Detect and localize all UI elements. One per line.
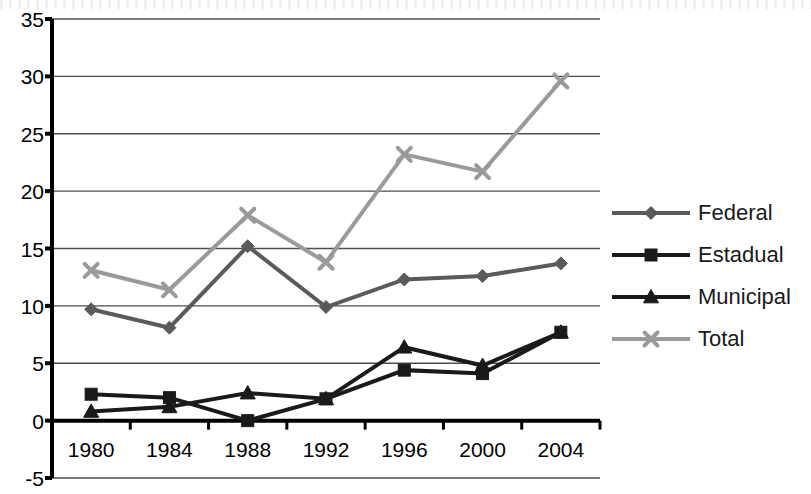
y-axis-label-35: 35 bbox=[0, 9, 44, 30]
data-point-square bbox=[645, 249, 657, 261]
legend-label-federal: Federal bbox=[698, 202, 773, 224]
x-axis-label-1984: 1984 bbox=[146, 439, 193, 460]
legend-square-marker-icon bbox=[640, 244, 662, 266]
data-point-x bbox=[241, 209, 254, 222]
legend: FederalEstadualMunicipalTotal bbox=[612, 192, 811, 360]
x-axis-label-1996: 1996 bbox=[381, 439, 428, 460]
legend-label-estadual: Estadual bbox=[698, 244, 784, 266]
y-axis-label-10: 10 bbox=[0, 295, 44, 316]
scan-artifact bbox=[0, 0, 811, 9]
data-point-triangle bbox=[397, 340, 412, 353]
legend-label-total: Total bbox=[698, 328, 744, 350]
y-axis-label-20: 20 bbox=[0, 181, 44, 202]
y-axis-label-5: 5 bbox=[0, 353, 44, 374]
series-line-total bbox=[91, 81, 561, 290]
data-point-square bbox=[398, 364, 410, 376]
data-point-x bbox=[645, 333, 658, 346]
x-axis-label-1992: 1992 bbox=[303, 439, 350, 460]
x-axis-label-2000: 2000 bbox=[459, 439, 506, 460]
legend-key-municipal bbox=[612, 286, 690, 308]
data-point-diamond bbox=[476, 270, 489, 283]
y-axis-tick-labels: 35302520151050-5 bbox=[0, 0, 44, 494]
y-axis-label-15: 15 bbox=[0, 238, 44, 259]
data-point-diamond bbox=[554, 257, 567, 270]
x-axis-label-1988: 1988 bbox=[224, 439, 271, 460]
legend-item-estadual[interactable]: Estadual bbox=[612, 234, 811, 276]
series-estadual bbox=[85, 326, 567, 426]
data-point-triangle bbox=[644, 290, 659, 303]
series-total bbox=[85, 74, 568, 296]
data-point-square bbox=[85, 388, 97, 400]
legend-key-estadual bbox=[612, 244, 690, 266]
series-municipal bbox=[84, 325, 569, 418]
y-axis-label-0: 0 bbox=[0, 410, 44, 431]
data-point-square bbox=[242, 415, 254, 427]
data-series-layer bbox=[84, 74, 569, 426]
data-point-diamond bbox=[85, 303, 98, 316]
legend-x-marker-icon bbox=[640, 328, 662, 350]
legend-item-federal[interactable]: Federal bbox=[612, 192, 811, 234]
line-chart: 35302520151050-5 19801984198819921996200… bbox=[0, 0, 811, 494]
y-axis-label--5: -5 bbox=[0, 468, 44, 489]
x-axis-label-1980: 1980 bbox=[68, 439, 115, 460]
legend-diamond-marker-icon bbox=[640, 202, 662, 224]
data-point-diamond bbox=[645, 207, 658, 220]
legend-triangle-marker-icon bbox=[640, 286, 662, 308]
data-point-diamond bbox=[398, 273, 411, 286]
legend-item-total[interactable]: Total bbox=[612, 318, 811, 360]
x-axis-label-2004: 2004 bbox=[537, 439, 584, 460]
y-axis-label-30: 30 bbox=[0, 66, 44, 87]
y-axis-label-25: 25 bbox=[0, 123, 44, 144]
legend-key-federal bbox=[612, 202, 690, 224]
legend-item-municipal[interactable]: Municipal bbox=[612, 276, 811, 318]
legend-label-municipal: Municipal bbox=[698, 286, 791, 308]
data-point-x bbox=[320, 256, 333, 269]
legend-key-total bbox=[612, 328, 690, 350]
